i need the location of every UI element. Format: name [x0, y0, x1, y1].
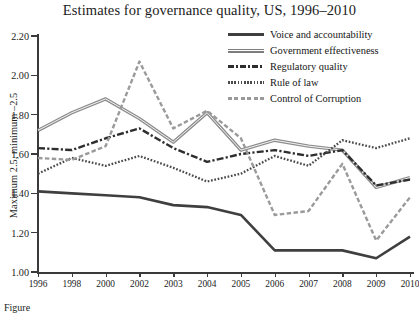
series-line-voice-and-accountability — [38, 191, 410, 258]
x-axis-tick-label: 2008 — [333, 279, 352, 289]
y-axis-tick — [31, 114, 38, 115]
x-axis-tick-label: 1996 — [29, 279, 48, 289]
x-axis-tick-label: 2002 — [130, 279, 149, 289]
x-axis-tick — [139, 272, 140, 277]
x-axis-tick — [72, 272, 73, 277]
x-axis-tick-label: 2003 — [164, 279, 183, 289]
x-axis-tick-label: 2010 — [401, 279, 419, 289]
x-axis-tick-label: 2009 — [367, 279, 386, 289]
y-axis-tick — [31, 232, 38, 233]
x-axis-tick — [173, 272, 174, 277]
y-axis-tick — [31, 193, 38, 194]
y-axis-tick — [31, 153, 38, 154]
x-axis-tick-label: 2005 — [232, 279, 251, 289]
series-line-rule-of-law — [38, 138, 410, 181]
x-axis-tick — [275, 272, 276, 277]
x-axis-tick — [376, 272, 377, 277]
x-axis-tick-label: 2006 — [265, 279, 284, 289]
y-axis-tick — [31, 75, 38, 76]
x-axis-tick-label: 2004 — [198, 279, 217, 289]
figure-container: Estimates for governance quality, US, 19… — [0, 0, 419, 315]
x-axis-tick — [106, 272, 107, 277]
y-axis-tick — [31, 271, 38, 272]
x-axis-tick-label: 2000 — [96, 279, 115, 289]
series-line-control-of-corruption — [38, 62, 410, 241]
x-axis-tick — [38, 272, 39, 277]
x-axis-tick — [309, 272, 310, 277]
x-axis-tick — [342, 272, 343, 277]
x-axis-tick-label: 2007 — [299, 279, 318, 289]
x-axis-tick — [241, 272, 242, 277]
chart-plot-area — [0, 0, 419, 315]
y-axis-tick — [31, 35, 38, 36]
x-axis-tick — [207, 272, 208, 277]
x-axis-tick-label: 1998 — [62, 279, 81, 289]
x-axis-tick — [410, 272, 411, 277]
series-line-regulatory-quality — [38, 128, 410, 185]
figure-caption: Figure — [4, 302, 30, 313]
